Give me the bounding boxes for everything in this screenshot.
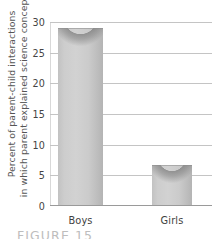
figure-container: Percent of parent-child interactions in … <box>0 0 217 239</box>
y-axis-label-line-1: Percent of parent-child interactions <box>5 11 17 178</box>
x-tick-label-girls: Girls <box>161 215 184 226</box>
figure-caption: FIGURE 15 <box>17 228 93 239</box>
bar-girls <box>152 165 192 205</box>
bar-boys <box>58 28 103 205</box>
y-tick-label-25: 25 <box>23 47 45 58</box>
y-tick-label-15: 15 <box>23 109 45 120</box>
y-axis-label: Percent of parent-child interactions in … <box>1 0 35 197</box>
y-tick-label-30: 30 <box>23 17 45 28</box>
x-tick-label-boys: Boys <box>68 215 92 226</box>
gridline-30 <box>50 22 212 23</box>
y-axis-label-line-2: in which parent explained science concep… <box>18 0 30 197</box>
y-tick-label-10: 10 <box>23 139 45 150</box>
x-axis-line <box>50 205 212 206</box>
y-tick-label-20: 20 <box>23 78 45 89</box>
y-tick-label-0: 0 <box>23 201 45 212</box>
plot-area: 30 25 20 15 10 5 0 Boys Girls <box>50 22 212 206</box>
y-tick-label-5: 5 <box>23 170 45 181</box>
